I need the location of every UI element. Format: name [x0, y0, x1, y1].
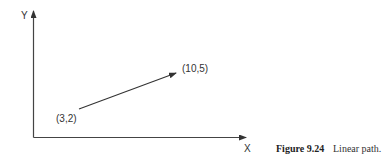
- linear-path-figure: Y X (3,2) (10,5) Figure 9.24 Linear path…: [0, 0, 384, 157]
- figure-caption: Linear path.: [333, 143, 381, 154]
- figure-number: Figure 9.24: [276, 143, 324, 154]
- path-arrow: [79, 73, 176, 109]
- start-point-label: (3,2): [56, 113, 77, 124]
- y-axis-label: Y: [21, 10, 28, 21]
- x-axis-label: X: [244, 143, 251, 154]
- end-point-label: (10,5): [182, 63, 208, 74]
